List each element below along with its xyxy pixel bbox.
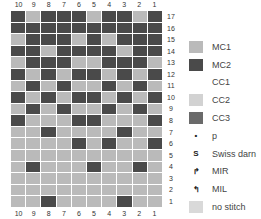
cell-mc1 — [26, 11, 40, 22]
cell-mc2 — [87, 46, 101, 57]
cell-mc1 — [11, 185, 25, 196]
cell-mc2 — [41, 92, 55, 103]
cell-mc1 — [57, 173, 71, 184]
cell-mc1 — [57, 127, 71, 138]
cell-mc1 — [87, 127, 101, 138]
cell-mc2 — [57, 57, 71, 68]
cell-mc2 — [87, 23, 101, 34]
cell-mc1 — [102, 196, 116, 207]
color-swatch — [189, 201, 203, 213]
legend-item: ↰MIL — [189, 180, 261, 198]
symbol-icon: ↱ — [189, 165, 203, 177]
color-swatch — [189, 112, 203, 124]
cell-mc1 — [87, 11, 101, 22]
symbol-icon: S — [189, 148, 203, 160]
cell-mc1 — [87, 104, 101, 115]
cell-mc1 — [26, 150, 40, 161]
cell-mc1 — [72, 57, 86, 68]
cell-mc2 — [26, 162, 40, 173]
column-label: 9 — [26, 209, 41, 219]
cell-mc2 — [26, 57, 40, 68]
cell-mc2 — [72, 23, 86, 34]
legend-item: MC1 — [189, 38, 261, 56]
cell-mc1 — [133, 69, 147, 80]
column-label: 4 — [102, 0, 117, 10]
cell-mc1 — [133, 150, 147, 161]
cell-mc1 — [26, 69, 40, 80]
column-label: 1 — [147, 0, 162, 10]
cell-mc1 — [11, 57, 25, 68]
cell-mc1 — [102, 127, 116, 138]
cell-mc2 — [26, 34, 40, 45]
column-labels-top: 10987654321 — [11, 0, 162, 10]
row-label: 14 — [164, 46, 178, 58]
cell-mc2 — [87, 162, 101, 173]
legend-item: CC3 — [189, 109, 261, 127]
cell-mc2 — [41, 69, 55, 80]
cell-mc1 — [117, 138, 131, 149]
column-label: 2 — [132, 209, 147, 219]
cell-mc2 — [133, 46, 147, 57]
column-label: 6 — [71, 209, 86, 219]
column-label: 5 — [86, 209, 101, 219]
cell-mc1 — [72, 173, 86, 184]
cell-mc2 — [102, 81, 116, 92]
cell-mc2 — [117, 23, 131, 34]
cell-mc1 — [72, 162, 86, 173]
legend-label: CC1 — [212, 77, 230, 87]
cell-mc2 — [148, 11, 162, 22]
cell-mc1 — [102, 150, 116, 161]
legend-label: CC3 — [212, 113, 230, 123]
cell-mc2 — [57, 34, 71, 45]
cell-mc2 — [11, 46, 25, 57]
cell-mc2 — [72, 11, 86, 22]
cell-mc2 — [117, 127, 131, 138]
row-label: 2 — [164, 184, 178, 196]
cell-mc2 — [11, 23, 25, 34]
cell-mc1 — [26, 138, 40, 149]
cell-mc1 — [87, 138, 101, 149]
cell-mc2 — [133, 23, 147, 34]
cell-mc2 — [11, 11, 25, 22]
cell-mc1 — [11, 196, 25, 207]
cell-mc1 — [72, 34, 86, 45]
cell-mc2 — [72, 69, 86, 80]
cell-mc1 — [26, 196, 40, 207]
symbol-icon: ↰ — [189, 183, 203, 195]
cell-mc1 — [148, 150, 162, 161]
cell-mc1 — [72, 150, 86, 161]
cell-mc2 — [57, 23, 71, 34]
cell-mc2 — [133, 162, 147, 173]
legend-item: ↱MIR — [189, 163, 261, 181]
cell-mc1 — [117, 46, 131, 57]
cell-mc2 — [41, 23, 55, 34]
column-label: 7 — [56, 209, 71, 219]
legend-item: CC1 — [189, 74, 261, 92]
cell-mc1 — [41, 173, 55, 184]
cell-mc1 — [102, 115, 116, 126]
color-swatch — [189, 41, 203, 53]
cell-mc1 — [133, 185, 147, 196]
column-label: 5 — [86, 0, 101, 10]
cell-mc1 — [26, 115, 40, 126]
legend-item: •p — [189, 127, 261, 145]
cell-mc2 — [133, 104, 147, 115]
cell-mc1 — [133, 115, 147, 126]
cell-mc1 — [117, 115, 131, 126]
row-label: 6 — [164, 138, 178, 150]
cell-mc2 — [117, 11, 131, 22]
cell-mc2 — [117, 92, 131, 103]
cell-mc2 — [41, 196, 55, 207]
legend-label: Swiss darn — [212, 149, 256, 159]
cell-mc1 — [41, 81, 55, 92]
cell-mc1 — [57, 69, 71, 80]
legend: MC1MC2CC1CC2CC3•pSSwiss darn↱MIR↰MILno s… — [189, 38, 261, 216]
legend-item: no stitch — [189, 198, 261, 216]
cell-mc1 — [11, 173, 25, 184]
cell-mc2 — [26, 104, 40, 115]
cell-mc1 — [11, 104, 25, 115]
cell-mc2 — [148, 46, 162, 57]
legend-item: CC2 — [189, 91, 261, 109]
cell-mc2 — [102, 11, 116, 22]
row-label: 1 — [164, 195, 178, 207]
